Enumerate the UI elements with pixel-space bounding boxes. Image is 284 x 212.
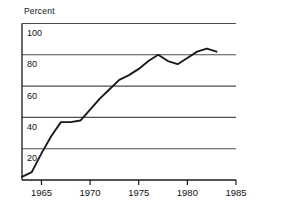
x-tick-marks-group	[41, 180, 236, 185]
y-tick-label: 40	[27, 122, 37, 132]
data-series-line	[22, 49, 217, 177]
chart-plot: 20406080100 19651970197519801985	[0, 0, 284, 212]
y-tick-label: 20	[27, 153, 37, 163]
x-tick-label: 1980	[177, 187, 198, 198]
gridlines-group	[22, 24, 236, 149]
x-tick-labels-group: 19651970197519801985	[31, 187, 247, 198]
y-tick-labels-group: 20406080100	[27, 28, 42, 163]
x-tick-label: 1975	[128, 187, 149, 198]
chart-container: Percent 20406080100 19651970197519801985	[0, 0, 284, 212]
data-series-line-group	[22, 49, 217, 177]
y-tick-label: 80	[27, 59, 37, 69]
x-tick-label: 1970	[80, 187, 101, 198]
axis-frame-group	[22, 24, 236, 181]
x-tick-label: 1985	[225, 187, 246, 198]
y-tick-label: 60	[27, 91, 37, 101]
y-tick-label: 100	[27, 28, 42, 38]
x-tick-label: 1965	[31, 187, 52, 198]
